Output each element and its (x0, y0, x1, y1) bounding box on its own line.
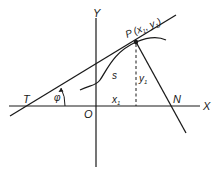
curve (80, 38, 166, 90)
curve-label: s (112, 70, 117, 81)
x1-label: x1 (111, 94, 120, 106)
y1-label: y1 (138, 73, 147, 85)
x-axis-label: X (202, 100, 211, 112)
angle-label: φ (54, 92, 61, 103)
diagram-canvas: Y X O T N φ s x1 y1 P(x1, y1) (0, 0, 216, 171)
origin-label: O (84, 108, 93, 120)
normal-line (136, 42, 186, 133)
y-axis-label: Y (93, 7, 101, 19)
normal-intersect-label: N (173, 93, 181, 105)
point-p-marker (134, 40, 138, 44)
